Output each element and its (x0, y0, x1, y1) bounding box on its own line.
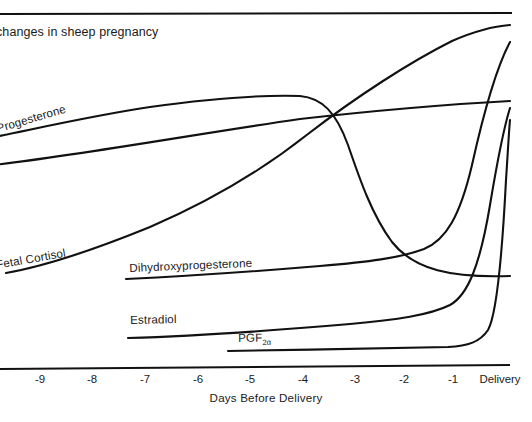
plot-canvas (0, 0, 532, 422)
curve-linear-trend (0, 101, 510, 165)
x-axis-tick-6: -6 (193, 373, 203, 385)
x-axis-tick-8: -8 (87, 373, 97, 385)
bottom-axis-rule (0, 365, 510, 369)
curve-dihydroxyprogesterone (126, 42, 510, 279)
x-axis-tick-9: -9 (35, 373, 45, 385)
series-label-pgf-subscript: 2α (262, 338, 271, 347)
x-axis-tick-1: -1 (448, 373, 458, 385)
x-axis-tick-7: -7 (140, 373, 150, 385)
series-label-estradiol: Estradiol (130, 312, 177, 326)
x-axis-tick-Delivery: Delivery (479, 373, 520, 385)
x-axis-title: Days Before Delivery (210, 391, 323, 404)
chart-title: changes in sheep pregnancy (0, 25, 158, 39)
series-label-pgf-base: PGF (238, 331, 263, 344)
curve-fetal-cortisol (6, 25, 510, 273)
curve-pgf2alpha (228, 120, 510, 351)
figure-hormone-changes-sheep-pregnancy: changes in sheep pregnancy Progesterone … (0, 0, 532, 422)
x-axis-tick-2: -2 (399, 373, 409, 385)
x-axis-tick-5: -5 (245, 373, 255, 385)
series-label-pgf2alpha: PGF2α (238, 330, 271, 347)
top-rule (0, 13, 512, 14)
x-axis-tick-4: -4 (298, 373, 308, 385)
x-axis-tick-3: -3 (350, 373, 360, 385)
curve-progesterone (0, 96, 510, 276)
